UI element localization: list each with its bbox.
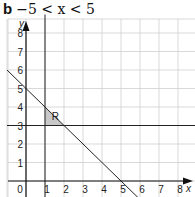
boundary-line-x-plus-y-5 [7, 70, 140, 197]
y-tick-label: 3 [17, 121, 23, 132]
region-r-label: R [52, 111, 59, 122]
x-tick-label: 6 [139, 184, 145, 195]
y-tick-label: 5 [17, 84, 23, 95]
y-axis-label: y [18, 18, 25, 29]
x-tick-label: 5 [120, 184, 126, 195]
y-tick-label: 2 [17, 139, 23, 150]
x-tick-label: 1 [44, 184, 50, 195]
x-tick-label: 0 [17, 184, 23, 195]
y-tick-label: 6 [17, 65, 23, 76]
x-tick-label: 8 [177, 184, 183, 195]
y-tick-label: 8 [17, 28, 23, 39]
y-tick-label: 1 [17, 158, 23, 169]
y-tick-label: 7 [17, 47, 23, 58]
x-axis-label: x [185, 183, 192, 194]
y-tick-label: 4 [17, 102, 23, 113]
x-tick-label: 4 [101, 184, 107, 195]
x-tick-label: 3 [82, 184, 88, 195]
x-tick-label: 2 [63, 184, 69, 195]
coordinate-graph: 01234567812345678xyR [0, 0, 195, 197]
x-tick-label: 7 [158, 184, 164, 195]
